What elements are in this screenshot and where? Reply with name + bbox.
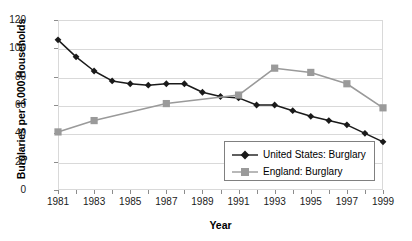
series-line <box>58 40 383 142</box>
data-point-diamond <box>343 121 350 128</box>
legend-item-united-states[interactable]: United States: Burglary <box>230 146 369 163</box>
y-axis-tick-label: 0 <box>0 185 26 195</box>
x-axis-tick-mark <box>58 190 59 194</box>
x-axis-tick-label: 1997 <box>327 196 367 207</box>
data-point-square <box>307 69 314 76</box>
x-axis-tick-label: 1983 <box>74 196 114 207</box>
legend-item-england[interactable]: England: Burglary <box>230 163 369 180</box>
square-marker-icon <box>230 165 260 179</box>
x-axis-tick-label: 1993 <box>255 196 295 207</box>
x-axis-tick-label: 1985 <box>110 196 150 207</box>
data-point-square <box>163 100 170 107</box>
data-point-diamond <box>253 102 260 109</box>
x-axis-tick-mark <box>293 190 294 194</box>
data-point-diamond <box>127 80 134 87</box>
x-axis-tick-mark <box>148 190 149 194</box>
x-axis-tick-mark <box>202 190 203 194</box>
x-axis-tick-mark <box>94 190 95 194</box>
data-point-square <box>343 80 350 87</box>
y-axis-tick-label: 120 <box>0 15 26 25</box>
x-axis-tick-mark <box>365 190 366 194</box>
y-axis-tick-label: 20 <box>0 157 26 167</box>
data-point-square <box>235 91 242 98</box>
y-axis-tick-label: 80 <box>0 72 26 82</box>
x-axis-tick-label: 1991 <box>219 196 259 207</box>
data-point-square <box>379 104 386 111</box>
data-point-diamond <box>181 80 188 87</box>
data-point-diamond <box>109 78 116 85</box>
data-point-diamond <box>289 107 296 114</box>
y-axis-tick-label: 60 <box>0 100 26 110</box>
x-axis-tick-mark <box>130 190 131 194</box>
x-axis-tick-mark <box>347 190 348 194</box>
data-point-diamond <box>307 113 314 120</box>
x-axis-tick-mark <box>166 190 167 194</box>
burglary-rate-line-chart: Burglaries per 1,000 Households 12010080… <box>0 0 412 241</box>
x-axis-tick-label: 1987 <box>146 196 186 207</box>
legend: United States: Burglary England: Burglar… <box>224 141 375 181</box>
legend-label-united-states: United States: Burglary <box>260 149 366 160</box>
x-axis-title: Year <box>58 219 383 231</box>
x-axis-tick-mark <box>221 190 222 194</box>
data-point-square <box>54 128 61 135</box>
x-axis-tick-mark <box>184 190 185 194</box>
y-axis-tick-label: 40 <box>0 128 26 138</box>
x-axis-tick-mark <box>383 190 384 194</box>
x-axis-tick-label: 1981 <box>38 196 78 207</box>
data-point-diamond <box>380 138 387 145</box>
series-united-states <box>55 36 387 145</box>
data-point-diamond <box>199 89 206 96</box>
series-england <box>54 65 386 136</box>
data-point-diamond <box>362 130 369 137</box>
data-point-square <box>271 65 278 72</box>
x-axis-tick-mark <box>329 190 330 194</box>
data-point-diamond <box>145 82 152 89</box>
x-axis-tick-label: 1995 <box>291 196 331 207</box>
x-axis-tick-mark <box>112 190 113 194</box>
x-axis-tick-mark <box>311 190 312 194</box>
x-axis-tick-mark <box>275 190 276 194</box>
legend-label-england: England: Burglary <box>260 166 343 177</box>
x-axis-tick-mark <box>76 190 77 194</box>
diamond-marker-icon <box>230 148 260 162</box>
data-point-square <box>91 117 98 124</box>
x-axis-tick-mark <box>239 190 240 194</box>
x-axis-tick-label: 1999 <box>363 196 403 207</box>
y-axis-tick-label: 100 <box>0 43 26 53</box>
x-axis-tick-mark <box>257 190 258 194</box>
data-point-diamond <box>325 117 332 124</box>
data-point-diamond <box>271 102 278 109</box>
x-axis-tick-label: 1989 <box>182 196 222 207</box>
data-point-diamond <box>163 80 170 87</box>
